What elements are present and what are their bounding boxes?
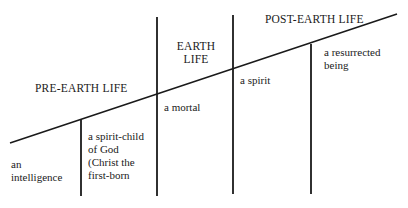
phase-label-post-earth: POST-EARTH LIFE (265, 13, 364, 26)
state-resurrected-line2: being (324, 59, 381, 72)
state-spirit-child: a spirit-child of God (Christ the first-… (88, 130, 144, 182)
state-spirit-child-line1: a spirit-child (88, 130, 144, 143)
phase-label-earth-line2: LIFE (176, 53, 216, 66)
state-spirit-child-line3: (Christ the (88, 156, 144, 169)
state-resurrected-line1: a resurrected (324, 46, 381, 59)
state-resurrected: a resurrected being (324, 46, 381, 72)
phase-label-earth-line1: EARTH (176, 40, 216, 53)
state-spirit: a spirit (240, 74, 270, 87)
progression-line (10, 14, 397, 143)
state-intelligence: an intelligence (11, 158, 62, 184)
state-spirit-child-line2: of God (88, 143, 144, 156)
state-intelligence-line1: an (11, 158, 62, 171)
phase-label-pre-earth: PRE-EARTH LIFE (35, 82, 128, 95)
phase-label-earth: EARTH LIFE (176, 40, 216, 66)
state-spirit-child-line4: first-born (88, 169, 144, 182)
state-mortal: a mortal (164, 101, 200, 114)
state-intelligence-line2: intelligence (11, 171, 62, 184)
